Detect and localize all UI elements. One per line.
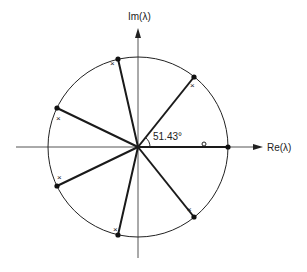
root-dot-icon	[54, 183, 59, 188]
angle-arc	[146, 138, 151, 147]
root-dot-icon	[191, 214, 196, 219]
root-dot-icon	[54, 105, 59, 110]
root-dot-icon	[191, 74, 196, 79]
spoke-103	[118, 59, 138, 147]
root-dot-icon	[115, 56, 120, 61]
spoke-257	[118, 147, 138, 235]
cross-icon: ×	[190, 81, 195, 90]
cross-icon: ×	[110, 59, 115, 68]
cross-icon: ×	[113, 225, 118, 234]
imag-axis-label: Im(λ)	[128, 11, 151, 22]
open-circle-marker-icon	[202, 142, 206, 146]
spoke-309	[138, 147, 194, 217]
real-axis-arrow-icon	[253, 144, 263, 150]
real-axis-label: Re(λ)	[267, 142, 291, 153]
root-dot-icon	[225, 144, 230, 149]
cross-icon: ×	[187, 205, 192, 214]
angle-label: 51.43°	[153, 131, 182, 142]
spoke-206	[57, 147, 138, 186]
spoke-154	[57, 108, 138, 147]
cross-icon: ×	[57, 173, 62, 182]
imag-axis-arrow-icon	[135, 28, 141, 38]
root-locus-diagram: Im(λ) Re(λ) × × × × × × 51.43°	[0, 0, 307, 272]
cross-icon: ×	[56, 114, 61, 123]
